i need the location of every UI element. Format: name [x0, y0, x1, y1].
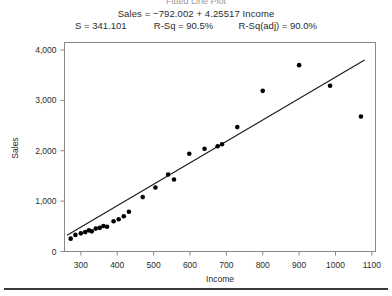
data-point [127, 209, 132, 214]
data-point [140, 195, 145, 200]
x-tick-label: 1000 [326, 260, 345, 270]
data-point [105, 225, 110, 230]
plot-frame [65, 43, 376, 252]
x-tick-label: 800 [256, 260, 270, 270]
data-point [172, 177, 177, 182]
x-axis-label: Income [206, 274, 234, 284]
data-point [187, 151, 192, 156]
y-tick-label: 2,000 [35, 146, 57, 156]
x-tick-label: 1100 [363, 260, 382, 270]
x-axis-tick-labels: 30040050060070080090010001100 [74, 260, 381, 270]
y-tick-label: 1,000 [35, 196, 57, 206]
data-point [68, 236, 73, 241]
data-point [166, 172, 171, 177]
y-axis-label: Sales [10, 137, 20, 158]
data-point [73, 233, 78, 238]
x-tick-label: 900 [292, 260, 306, 270]
data-point [79, 231, 84, 236]
data-point [220, 142, 225, 147]
data-point [121, 214, 126, 219]
fitted-line-plot-figure: Fitted Line Plot Sales = −792.002 + 4.25… [0, 0, 392, 296]
y-axis-tick-labels: 01,0002,0003,0004,000 [35, 45, 57, 256]
data-point [328, 84, 333, 89]
data-point [260, 89, 265, 94]
data-point [359, 114, 364, 119]
x-tick-label: 500 [147, 260, 161, 270]
x-tick-label: 700 [219, 260, 233, 270]
x-tick-label: 300 [74, 260, 88, 270]
data-point [116, 217, 121, 222]
data-point [202, 146, 207, 151]
data-point [89, 229, 94, 234]
data-point [215, 144, 220, 149]
bottom-divider [4, 288, 388, 290]
data-point [111, 219, 116, 224]
data-point [93, 226, 98, 231]
y-tick-label: 4,000 [35, 45, 57, 55]
scatter-plot-canvas: 01,0002,0003,0004,000 300400500600700800… [0, 0, 392, 296]
data-point [153, 185, 158, 190]
y-tick-label: 3,000 [35, 95, 57, 105]
x-tick-label: 400 [110, 260, 124, 270]
y-tick-label: 0 [52, 247, 57, 257]
data-point [297, 63, 302, 68]
data-points [68, 63, 363, 241]
x-tick-label: 600 [183, 260, 197, 270]
data-point [235, 125, 240, 130]
